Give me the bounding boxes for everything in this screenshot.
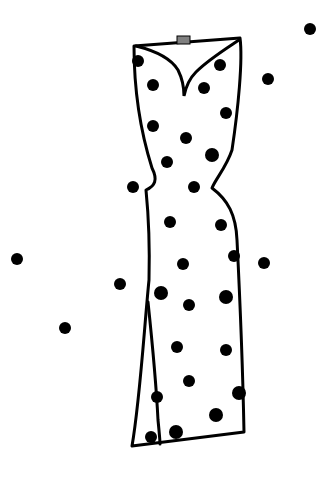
polka-dot: [132, 55, 144, 67]
polka-dot: [147, 120, 159, 132]
polka-dot: [262, 73, 274, 85]
polka-dot: [214, 59, 226, 71]
polka-dot: [169, 425, 183, 439]
polka-dot: [209, 408, 223, 422]
polka-dot: [11, 253, 23, 265]
polka-dot: [228, 250, 240, 262]
polka-dot: [145, 431, 157, 443]
polka-dot: [188, 181, 200, 193]
polka-dot: [258, 257, 270, 269]
polka-dot: [219, 290, 233, 304]
polka-dot: [183, 375, 195, 387]
polka-dot: [151, 391, 163, 403]
dress-illustration: [0, 0, 331, 479]
polka-dot: [59, 322, 71, 334]
polka-dot: [232, 386, 246, 400]
polka-dot: [164, 216, 176, 228]
polka-dot: [220, 344, 232, 356]
polka-dot: [114, 278, 126, 290]
polka-dot: [161, 156, 173, 168]
polka-dot: [154, 286, 168, 300]
polka-dot: [177, 258, 189, 270]
dress-label-tag: [177, 36, 190, 44]
polka-dot: [127, 181, 139, 193]
polka-dot: [220, 107, 232, 119]
polka-dot: [171, 341, 183, 353]
polka-dot: [198, 82, 210, 94]
polka-dot: [304, 23, 316, 35]
polka-dot: [215, 219, 227, 231]
polka-dot: [147, 79, 159, 91]
polka-dot: [180, 132, 192, 144]
polka-dot: [183, 299, 195, 311]
polka-dot: [205, 148, 219, 162]
